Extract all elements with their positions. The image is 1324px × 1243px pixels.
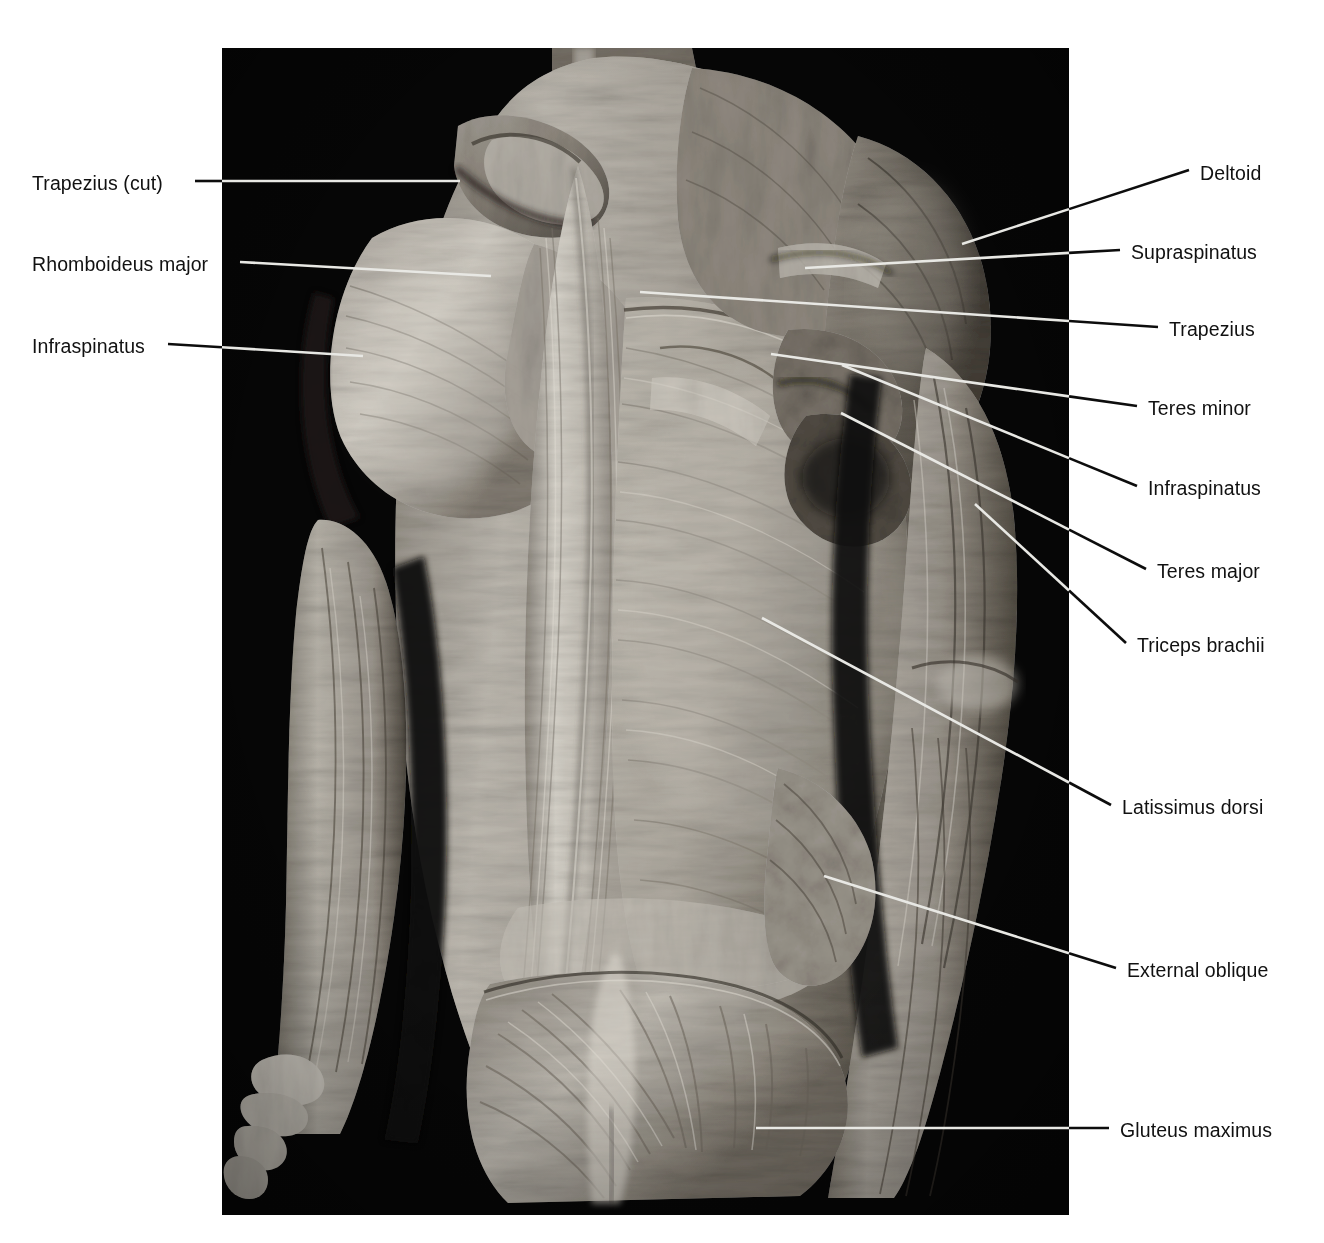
label-rhomboideus-major: Rhomboideus major bbox=[32, 255, 208, 275]
anatomy-figure: Trapezius (cut) Rhomboideus major Infras… bbox=[0, 0, 1324, 1243]
label-supraspinatus: Supraspinatus bbox=[1131, 243, 1257, 263]
leader-teres-minor bbox=[1069, 396, 1137, 406]
leader-external-oblique bbox=[1069, 953, 1116, 968]
dissection-photograph bbox=[222, 48, 1069, 1215]
leader-supraspinatus bbox=[1069, 250, 1120, 253]
leader-infraspinatus-left bbox=[168, 344, 222, 347]
label-deltoid: Deltoid bbox=[1200, 164, 1261, 184]
label-latissimus-dorsi: Latissimus dorsi bbox=[1122, 798, 1263, 818]
label-trapezius-cut: Trapezius (cut) bbox=[32, 174, 163, 194]
label-infraspinatus-right: Infraspinatus bbox=[1148, 479, 1261, 499]
photograph-content bbox=[222, 48, 1069, 1215]
leader-latissimus-dorsi bbox=[1069, 782, 1111, 805]
label-teres-minor: Teres minor bbox=[1148, 399, 1251, 419]
label-teres-major: Teres major bbox=[1157, 562, 1260, 582]
leader-deltoid bbox=[1069, 170, 1189, 209]
label-triceps-brachii: Triceps brachii bbox=[1137, 636, 1265, 656]
leader-trapezius bbox=[1069, 321, 1158, 327]
label-external-oblique: External oblique bbox=[1127, 961, 1268, 981]
leader-teres-major bbox=[1069, 530, 1146, 569]
label-gluteus-maximus: Gluteus maximus bbox=[1120, 1121, 1272, 1141]
label-trapezius: Trapezius bbox=[1169, 320, 1255, 340]
leader-infraspinatus-right bbox=[1069, 458, 1137, 486]
specimen-rendering bbox=[222, 48, 1069, 1215]
label-infraspinatus-left: Infraspinatus bbox=[32, 337, 145, 357]
leader-triceps-brachii bbox=[1069, 591, 1126, 643]
